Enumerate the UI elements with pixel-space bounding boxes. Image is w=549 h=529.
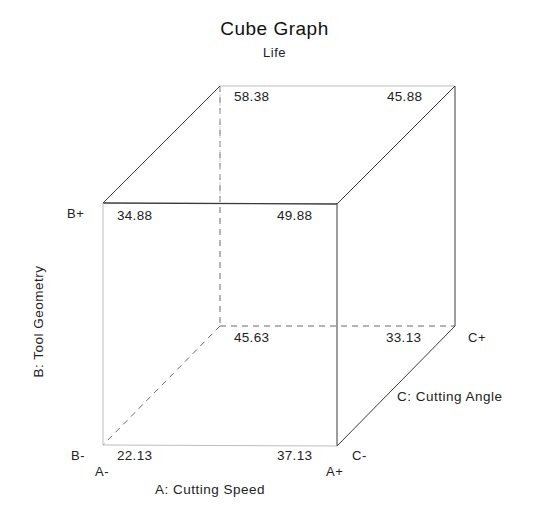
axis-a-label: A: Cutting Speed xyxy=(155,482,265,497)
value-a-lo-b-lo-c-lo: 22.13 xyxy=(117,448,152,463)
value-a-hi-b-hi-c-hi: 45.88 xyxy=(387,89,422,104)
value-a-hi-b-hi-c-lo: 49.88 xyxy=(277,208,312,223)
level-a-high: A+ xyxy=(326,464,343,479)
value-a-lo-b-lo-c-hi: 45.63 xyxy=(234,330,269,345)
level-b-high: B+ xyxy=(67,206,84,221)
axis-c-label: C: Cutting Angle xyxy=(397,389,503,404)
value-a-hi-b-lo-c-hi: 33.13 xyxy=(386,330,421,345)
level-c-low: C- xyxy=(352,448,367,463)
level-b-low: B- xyxy=(71,448,85,463)
level-c-high: C+ xyxy=(468,330,486,345)
value-a-hi-b-lo-c-lo: 37.13 xyxy=(277,448,312,463)
axis-b-label: B: Tool Geometry xyxy=(31,252,46,392)
value-a-lo-b-hi-c-hi: 58.38 xyxy=(234,89,269,104)
level-a-low: A- xyxy=(95,464,109,479)
value-a-lo-b-hi-c-lo: 34.88 xyxy=(117,208,152,223)
